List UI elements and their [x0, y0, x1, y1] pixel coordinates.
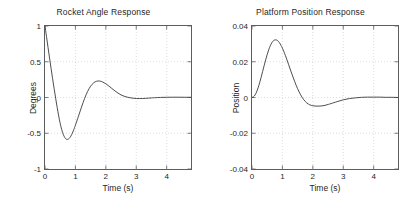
axes-rocket-angle: Degrees Time (s) -1-0.500.5101234 — [44, 25, 192, 170]
x-axis-label-time-right: Time (s) — [252, 183, 398, 193]
plot-panel-platform-position: Platform Position Response Position Time… — [207, 0, 414, 208]
y-axis-label-position: Position — [231, 68, 241, 128]
x-tick-label-platform-position: 2 — [311, 172, 315, 181]
x-tick-label-platform-position: 3 — [341, 172, 345, 181]
data-line-angle — [45, 26, 191, 139]
x-tick-label-rocket-angle: 1 — [73, 172, 77, 181]
axes-platform-position: Position Time (s) -0.04-0.0200.020.04012… — [251, 25, 399, 170]
y-tick-label-rocket-angle: 0 — [37, 93, 41, 102]
y-tick-label-rocket-angle: -1 — [34, 165, 41, 174]
x-tick-label-rocket-angle: 4 — [164, 172, 168, 181]
x-tick-label-rocket-angle: 0 — [43, 172, 47, 181]
plot-title-rocket-angle: Rocket Angle Response — [0, 7, 207, 18]
x-tick-label-rocket-angle: 2 — [104, 172, 108, 181]
x-tick-label-platform-position: 4 — [371, 172, 375, 181]
y-tick-label-platform-position: 0.04 — [232, 22, 248, 31]
plot-area-platform-position — [252, 26, 398, 169]
plot-area-rocket-angle — [45, 26, 191, 169]
plot-panel-rocket-angle: Rocket Angle Response Degrees Time (s) -… — [0, 0, 207, 208]
y-tick-label-platform-position: 0.02 — [232, 57, 248, 66]
y-tick-label-rocket-angle: 0.5 — [30, 57, 41, 66]
data-line-position — [252, 40, 398, 106]
x-tick-label-platform-position: 0 — [250, 172, 254, 181]
figure-canvas: Rocket Angle Response Degrees Time (s) -… — [0, 0, 414, 208]
y-tick-label-rocket-angle: 1 — [37, 22, 41, 31]
y-tick-label-platform-position: -0.02 — [230, 129, 248, 138]
x-tick-label-rocket-angle: 3 — [134, 172, 138, 181]
y-tick-label-rocket-angle: -0.5 — [27, 129, 41, 138]
plot-title-platform-position: Platform Position Response — [207, 7, 414, 18]
x-tick-label-platform-position: 1 — [280, 172, 284, 181]
x-axis-label-time-left: Time (s) — [45, 183, 191, 193]
y-tick-label-platform-position: 0 — [244, 93, 248, 102]
y-tick-label-platform-position: -0.04 — [230, 165, 248, 174]
